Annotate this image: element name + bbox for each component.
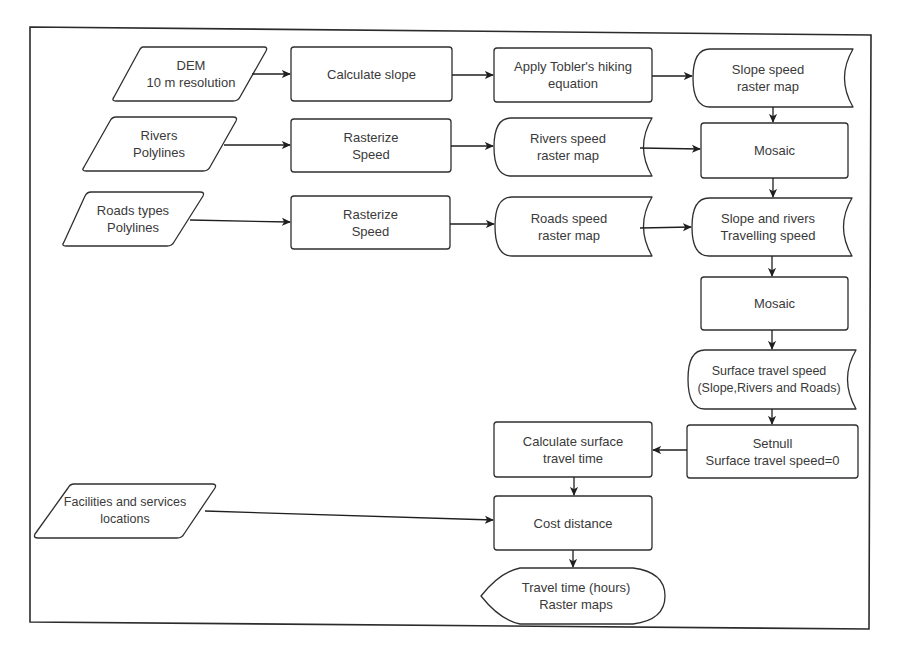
- node-shape-slope-speed: [693, 49, 853, 107]
- node-shape-surface-speed: [688, 350, 856, 409]
- node-shape-calc-time: [494, 422, 652, 477]
- node-shape-tobler: [494, 48, 652, 102]
- node-shape-cost-distance: [494, 496, 652, 550]
- node-shape-setnull: [687, 425, 858, 478]
- edge-facilities-to-cost-distance: [205, 511, 493, 520]
- node-shape-dem: [113, 47, 267, 101]
- node-shape-slope-rivers: [692, 198, 852, 256]
- node-shape-facilities: [34, 484, 215, 538]
- node-shape-roads-speed: [495, 197, 652, 256]
- edge-roads-speed-to-slope-rivers: [640, 227, 691, 228]
- node-shape-roads: [63, 192, 204, 246]
- node-shape-rasterize-roads: [291, 196, 450, 249]
- node-shape-travel-time: [481, 568, 665, 624]
- node-shape-mosaic2: [701, 277, 848, 330]
- flowchart-svg: [0, 0, 900, 667]
- node-shape-rivers: [83, 117, 237, 171]
- node-shape-rasterize-rivers: [291, 119, 451, 172]
- node-shape-calc-slope: [291, 47, 452, 101]
- node-shape-rivers-speed: [494, 118, 652, 176]
- edge-roads-to-rasterize: [190, 220, 290, 222]
- node-shape-mosaic1: [701, 123, 848, 178]
- edge-rivers-speed-to-mosaic1: [640, 148, 700, 149]
- flowchart-canvas: DEM 10 m resolution Rivers Polylines Roa…: [0, 0, 900, 667]
